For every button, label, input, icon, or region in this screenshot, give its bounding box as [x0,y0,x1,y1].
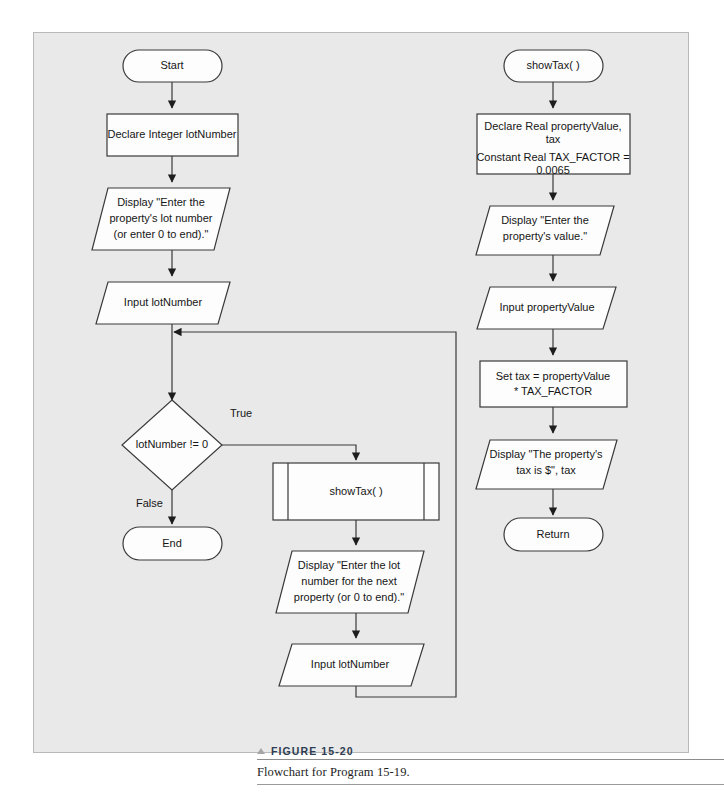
node-declare-tax[interactable]: Declare Real propertyValue, tax Constant… [476,114,630,176]
flowchart-canvas: Start Declare Integer lotNumber Display … [34,33,688,752]
node-input-lot-2-label: Input lotNumber [311,658,390,670]
node-declare-lot-label: Declare Integer lotNumber [107,128,236,140]
node-set-tax[interactable]: Set tax = propertyValue * TAX_FACTOR [480,361,627,407]
figure-description: Flowchart for Program 15-19. [257,760,724,784]
node-decision-lot-label: lotNumber != 0 [136,438,208,450]
node-declare-tax-line-4: Constant Real TAX_FACTOR = [476,151,629,163]
caption-rule-bottom [257,784,724,785]
node-display-tax[interactable]: Display "The property's tax is $", tax [476,440,617,489]
node-input-value-label: Input propertyValue [499,301,594,313]
node-input-value[interactable]: Input propertyValue [477,287,616,329]
node-display-prompt-2-line-2: number for the next [301,575,396,587]
node-input-lot-2[interactable]: Input lotNumber [279,644,424,686]
node-display-value-line-1: Display "Enter the [501,214,589,226]
node-input-lot-1[interactable]: Input lotNumber [96,282,230,324]
node-start-label: Start [160,59,183,71]
triangle-marker-icon [257,748,265,754]
node-display-prompt-1[interactable]: Display "Enter the property's lot number… [92,188,230,250]
caption-header-row: FIGURE 15-20 [257,745,724,759]
node-display-prompt-2[interactable]: Display "Enter the lot number for the ne… [276,551,424,613]
edge-label-false: False [136,497,163,509]
node-start[interactable]: Start [123,50,222,82]
node-call-showtax-label: showTax( ) [329,485,382,497]
edge-label-true: True [230,407,252,419]
figure-panel: Start Declare Integer lotNumber Display … [34,33,688,752]
node-return[interactable]: Return [504,518,603,551]
node-declare-tax-line-2: tax [546,133,561,145]
node-display-prompt-1-line-2: property's lot number [110,212,213,224]
node-display-prompt-1-line-1: Display "Enter the [117,196,205,208]
node-display-tax-line-1: Display "The property's [490,448,603,460]
node-set-tax-line-2: * TAX_FACTOR [514,385,592,397]
connector-decision-to-showtax-call [222,445,356,460]
node-display-value-line-2: property's value." [503,230,587,242]
node-end-label: End [162,537,182,549]
node-display-prompt-2-line-3: property (or 0 to end)." [294,591,404,603]
node-showtax-header[interactable]: showTax( ) [504,50,603,82]
node-declare-tax-line-1: Declare Real propertyValue, [484,120,621,132]
node-display-prompt-2-line-1: Display "Enter the lot [298,559,400,571]
figure-number-label: FIGURE 15-20 [271,745,354,757]
node-showtax-header-label: showTax( ) [526,59,579,71]
node-display-prompt-1-line-3: (or enter 0 to end)." [113,228,208,240]
node-set-tax-line-1: Set tax = propertyValue [496,370,610,382]
node-display-value[interactable]: Display "Enter the property's value." [476,206,614,255]
node-declare-tax-line-5: 0.0065 [536,164,570,176]
node-display-tax-line-2: tax is $", tax [516,464,576,476]
node-end[interactable]: End [123,527,222,560]
node-decision-lot[interactable]: lotNumber != 0 [122,400,222,490]
figure-caption: FIGURE 15-20 Flowchart for Program 15-19… [257,745,724,785]
node-return-label: Return [536,528,569,540]
node-call-showtax[interactable]: showTax( ) [273,463,439,520]
node-input-lot-1-label: Input lotNumber [124,296,203,308]
node-declare-lot[interactable]: Declare Integer lotNumber [107,114,238,156]
